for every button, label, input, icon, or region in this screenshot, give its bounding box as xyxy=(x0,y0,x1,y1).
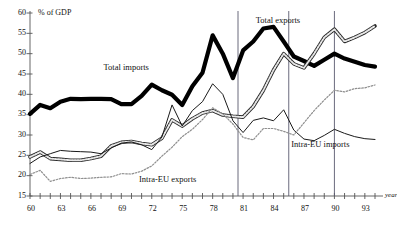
series-label-total-imports: Total imports xyxy=(103,62,148,72)
y-axis-unit-label: % of GDP xyxy=(38,8,71,17)
y-axis-tick-label: 35 xyxy=(8,109,26,118)
y-axis-tick-label: 15 xyxy=(8,191,26,200)
x-axis-unit-label: year xyxy=(385,191,397,199)
x-axis-tick-label: 87 xyxy=(298,204,312,213)
x-axis-tick-label: 78 xyxy=(207,204,221,213)
y-axis-tick-label: 50 xyxy=(8,48,26,57)
chart-plot-area xyxy=(0,0,397,232)
series-label-intra-eu-imports: Intra-EU imports xyxy=(291,139,349,149)
x-axis-tick-label: 75 xyxy=(176,204,190,213)
y-axis-tick-label: 30 xyxy=(8,130,26,139)
x-axis-tick-label: 69 xyxy=(115,204,129,213)
series-label-total-exports: Total exports xyxy=(256,15,301,25)
y-axis-tick-label: 60 xyxy=(8,8,26,17)
series-label-intra-eu-exports: Intra-EU exports xyxy=(139,174,196,184)
x-axis-tick-label: 84 xyxy=(268,204,282,213)
x-axis-tick-label: 60 xyxy=(24,204,38,213)
y-axis-tick-label: 40 xyxy=(8,89,26,98)
x-axis-tick-label: 63 xyxy=(54,204,68,213)
y-axis-tick-label: 45 xyxy=(8,69,26,78)
x-axis-tick-label: 90 xyxy=(328,204,342,213)
x-axis-tick-label: 72 xyxy=(146,204,160,213)
x-axis-tick-label: 81 xyxy=(237,204,251,213)
x-axis-tick-label: 66 xyxy=(85,204,99,213)
y-axis-tick-label: 25 xyxy=(8,150,26,159)
y-axis-tick-label: 55 xyxy=(8,28,26,37)
x-axis-tick-label: 93 xyxy=(359,204,373,213)
y-axis-tick-label: 20 xyxy=(8,170,26,179)
chart-container: 1520253035404550556060636669727578818487… xyxy=(0,0,397,232)
series-line-intra-eu-imports xyxy=(30,84,375,164)
